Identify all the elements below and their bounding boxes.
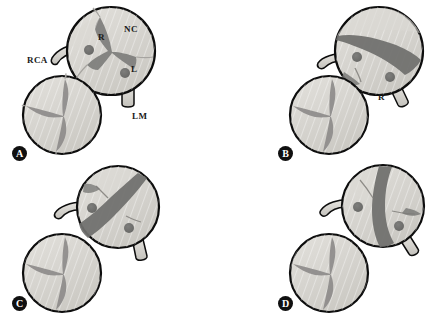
panel-a-right-coronary-ostium bbox=[84, 45, 94, 55]
panel-marker-c: C bbox=[12, 296, 27, 311]
panel-d bbox=[290, 165, 424, 312]
panel-b bbox=[290, 7, 423, 154]
r-cusp-label-b: R bbox=[378, 93, 385, 102]
panel-a-closed-valve bbox=[22, 74, 101, 154]
rca-label: RCA bbox=[27, 56, 48, 65]
panel-d-right-coronary-ostium bbox=[353, 202, 363, 212]
panel-c-right-coronary-ostium bbox=[87, 203, 97, 213]
lm-label: LM bbox=[132, 112, 147, 121]
panel-marker-a: A bbox=[12, 146, 27, 161]
panel-d-left-coronary-ostium bbox=[394, 221, 404, 231]
aortic-valve-figure bbox=[0, 0, 430, 323]
panel-b-right-coronary-ostium bbox=[352, 52, 362, 62]
panel-c bbox=[23, 166, 159, 312]
panel-c-closed-valve bbox=[23, 234, 101, 312]
l-cusp-label-a: L bbox=[131, 65, 137, 74]
r-cusp-label-a: R bbox=[98, 33, 105, 42]
panel-c-left-coronary-ostium bbox=[124, 223, 134, 233]
panel-marker-d: D bbox=[278, 296, 293, 311]
panel-a-left-coronary-ostium bbox=[120, 68, 130, 78]
nc-cusp-label-a: NC bbox=[124, 25, 138, 34]
panel-b-closed-valve bbox=[290, 76, 368, 154]
panel-b-left-coronary-ostium bbox=[385, 72, 395, 82]
panel-marker-b: B bbox=[278, 146, 293, 161]
panel-d-closed-valve bbox=[290, 234, 368, 312]
